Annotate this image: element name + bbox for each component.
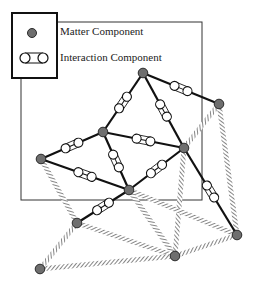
interaction-component-label: Interaction Component: [60, 51, 162, 63]
interaction-edge: [102, 128, 185, 153]
matter-node: [36, 154, 46, 164]
matter-node: [72, 218, 82, 228]
hatched-edge: [38, 221, 79, 270]
matter-node: [170, 251, 180, 261]
interaction-edge: [141, 69, 220, 108]
interaction-edge: [39, 128, 105, 163]
matter-node: [214, 99, 224, 109]
network-diagram: [0, 0, 254, 286]
matter-component-label: Matter Component: [60, 25, 143, 37]
matter-component-icon: [28, 29, 37, 38]
matter-node: [35, 264, 45, 274]
hatched-edge: [40, 254, 175, 272]
interaction-edge: [99, 70, 146, 134]
interaction-edge: [99, 130, 133, 192]
matter-node: [124, 185, 134, 195]
matter-node: [232, 230, 242, 240]
hatched-edge: [174, 233, 238, 259]
hatched-edge: [39, 158, 79, 224]
hatched-edge: [173, 148, 187, 256]
hatched-edge: [217, 104, 240, 236]
interaction-edge: [126, 144, 186, 193]
matter-node: [98, 127, 108, 137]
interaction-edge: [75, 186, 132, 227]
matter-node: [179, 143, 189, 153]
matter-node: [138, 68, 148, 78]
legend-box: [12, 13, 57, 78]
